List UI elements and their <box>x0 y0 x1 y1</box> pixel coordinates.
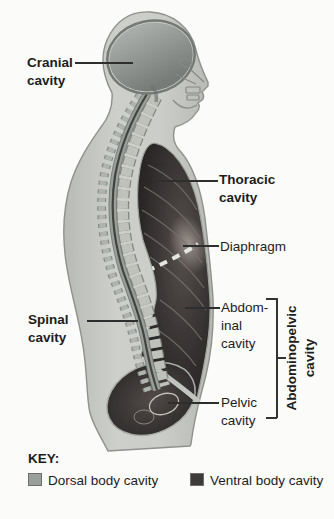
leader-pelvic <box>168 402 219 404</box>
label-cranial-cavity: Cranial cavity <box>27 54 73 90</box>
leader-thoracic <box>155 180 218 182</box>
key-label-dorsal: Dorsal body cavity <box>48 472 158 490</box>
label-spinal-cavity: Spinal cavity <box>28 311 69 347</box>
leader-spinal <box>87 320 138 322</box>
label-abdominopelvic-cavity: Abdominopelvic cavity <box>283 293 319 423</box>
bracket-bottom-tick <box>266 417 277 419</box>
figure-body-cavities: Cranial cavity Thoracic cavity Diaphragm… <box>0 0 334 519</box>
leader-abdominal <box>185 307 220 309</box>
dorsal-cavity-swatch <box>28 473 42 486</box>
label-abdominal-cavity: Abdom- inal cavity <box>221 299 268 353</box>
bracket-top-tick <box>266 298 277 300</box>
ventral-cavity-swatch <box>190 473 204 486</box>
key-title: KEY: <box>28 450 59 468</box>
label-pelvic-cavity: Pelvic cavity <box>221 394 257 430</box>
label-thoracic-cavity: Thoracic cavity <box>219 171 275 207</box>
key-label-ventral: Ventral body cavity <box>210 472 323 490</box>
leader-diaphragm <box>183 245 219 247</box>
label-diaphragm: Diaphragm <box>220 238 286 256</box>
leader-cranial <box>75 62 133 64</box>
